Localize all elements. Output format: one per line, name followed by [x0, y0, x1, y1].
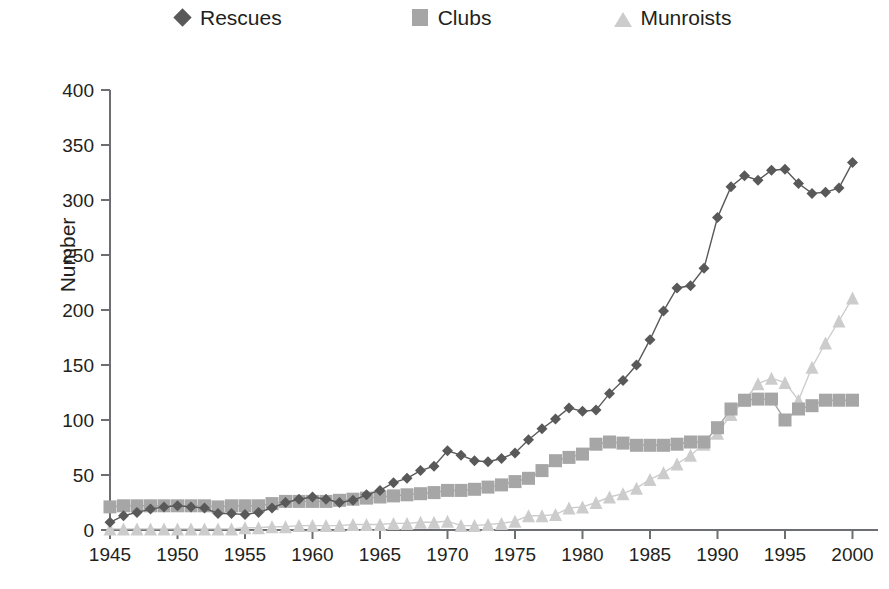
plot-area: Number 050100150200250300350400 19451950… [0, 0, 889, 589]
svg-text:1980: 1980 [561, 544, 603, 565]
data-point [765, 393, 778, 406]
svg-text:1990: 1990 [696, 544, 738, 565]
data-point [482, 481, 495, 494]
data-point [388, 477, 399, 488]
data-point [657, 466, 670, 479]
data-point [105, 517, 116, 528]
data-point [644, 439, 657, 452]
svg-text:250: 250 [62, 245, 94, 266]
data-point [495, 478, 508, 491]
svg-text:1955: 1955 [224, 544, 266, 565]
data-point [846, 394, 859, 407]
svg-text:2000: 2000 [831, 544, 873, 565]
data-point [441, 484, 454, 497]
data-point [806, 361, 819, 374]
series-line [110, 298, 853, 529]
data-point [104, 500, 117, 513]
data-point [468, 483, 481, 496]
svg-text:400: 400 [62, 80, 94, 101]
data-point [630, 482, 643, 495]
data-point [630, 439, 643, 452]
data-point [779, 414, 792, 427]
data-point [644, 473, 657, 486]
data-point [766, 165, 777, 176]
data-point [415, 465, 426, 476]
data-point [792, 403, 805, 416]
data-point [819, 337, 832, 350]
data-point [833, 315, 846, 328]
series-clubs [104, 393, 860, 514]
data-point [657, 439, 670, 452]
svg-text:1970: 1970 [426, 544, 468, 565]
svg-text:150: 150 [62, 355, 94, 376]
data-point [414, 487, 427, 500]
chart-figure: Rescues Clubs Munroists Number 050100150… [0, 0, 889, 589]
data-point [590, 438, 603, 451]
data-point [765, 372, 778, 385]
data-point [645, 334, 656, 345]
data-point [402, 473, 413, 484]
data-point [577, 406, 588, 417]
data-point [807, 188, 818, 199]
data-point [590, 496, 603, 509]
data-point [806, 399, 819, 412]
series-rescues [105, 157, 859, 528]
data-point [752, 393, 765, 406]
data-point [779, 376, 792, 389]
svg-text:300: 300 [62, 190, 94, 211]
data-point [699, 263, 710, 274]
svg-text:100: 100 [62, 410, 94, 431]
svg-text:1975: 1975 [494, 544, 536, 565]
data-point [658, 306, 669, 317]
series-line [110, 399, 853, 507]
svg-text:50: 50 [73, 465, 94, 486]
data-point [455, 484, 468, 497]
svg-text:200: 200 [62, 300, 94, 321]
data-series-group [104, 157, 860, 535]
data-point [834, 182, 845, 193]
svg-text:1985: 1985 [629, 544, 671, 565]
data-point [712, 212, 723, 223]
data-point [509, 515, 522, 528]
data-point [819, 394, 832, 407]
data-point [603, 436, 616, 449]
data-point [684, 436, 697, 449]
data-point [387, 489, 400, 502]
data-point [752, 377, 765, 390]
svg-text:1945: 1945 [89, 544, 131, 565]
data-point [671, 458, 684, 471]
data-point [833, 394, 846, 407]
axis-lines [110, 90, 878, 530]
data-point [603, 491, 616, 504]
data-point [711, 421, 724, 434]
data-point [846, 291, 859, 304]
data-point [496, 453, 507, 464]
data-point [617, 437, 630, 450]
data-point [671, 438, 684, 451]
svg-text:0: 0 [83, 520, 94, 541]
svg-text:350: 350 [62, 135, 94, 156]
svg-text:1965: 1965 [359, 544, 401, 565]
svg-text:1995: 1995 [764, 544, 806, 565]
data-point [536, 464, 549, 477]
data-point [753, 175, 764, 186]
data-point [509, 475, 522, 488]
data-point [576, 448, 589, 461]
data-point [483, 456, 494, 467]
data-point [469, 455, 480, 466]
svg-text:1960: 1960 [291, 544, 333, 565]
data-point [549, 454, 562, 467]
data-point [563, 451, 576, 464]
data-point [617, 487, 630, 500]
data-point [725, 403, 738, 416]
svg-text:1950: 1950 [156, 544, 198, 565]
chart-canvas: 050100150200250300350400 194519501955196… [0, 0, 889, 589]
data-point [738, 394, 751, 407]
data-point [522, 472, 535, 485]
y-axis-ticks: 050100150200250300350400 [62, 80, 110, 541]
data-point [428, 486, 441, 499]
data-point [672, 283, 683, 294]
data-point [698, 436, 711, 449]
series-munroists [104, 291, 860, 535]
series-line [110, 163, 853, 523]
